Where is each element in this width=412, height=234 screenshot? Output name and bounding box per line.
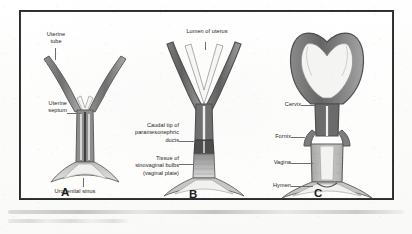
label-hymen-line-1: Hymen: [273, 182, 291, 188]
label-vagina: Vagina: [253, 159, 291, 166]
panel-letter-c: C: [314, 187, 323, 199]
label-cervix: Cervix: [263, 101, 301, 108]
label-sinovaginal-line-1: Tissue of: [156, 155, 179, 161]
label-fornix: Fornix: [253, 133, 291, 140]
leader-urogenital-sinus: [83, 178, 84, 187]
label-uterine-septum-line-2: septum: [48, 107, 67, 113]
label-lumen-of-uterus-line-1: Lumen of uterus: [186, 28, 227, 34]
label-urogenital-sinus: Urogenital sinus: [35, 188, 115, 195]
label-cervix-line-1: Cervix: [285, 101, 301, 107]
leader-vagina: [291, 163, 313, 164]
panel-c: Cervix Fornix Vagina Hymen C: [267, 12, 396, 202]
leader-caudal-tip: [179, 141, 194, 142]
panel-b: Lumen of uterus Caudal tip ofparamesonep…: [149, 12, 267, 202]
label-caudal-tip-line-3: ducts: [165, 137, 179, 143]
leader-uterine-tube: [55, 48, 56, 60]
label-caudal-tip-of-paramesonephric-ducts: Caudal tip ofparamesonephricducts: [119, 122, 179, 144]
label-lumen-of-uterus: Lumen of uterus: [169, 28, 245, 35]
label-vagina-line-1: Vagina: [274, 159, 291, 165]
leader-lumen-of-uterus: [205, 42, 206, 50]
label-uterine-tube: Uterinetube: [35, 31, 77, 46]
label-uterine-septum: Uterineseptum: [23, 100, 67, 115]
leader-uterine-septum: [67, 113, 81, 114]
label-uterine-tube-line-1: Uterine: [47, 31, 65, 37]
caption-line-1-blur: [8, 210, 404, 214]
label-fornix-line-1: Fornix: [275, 133, 291, 139]
label-uterine-septum-line-1: Uterine: [49, 100, 67, 106]
leader-hymen: [291, 186, 313, 187]
leader-cervix: [301, 105, 315, 106]
label-tissue-of-sinovaginal-bulbs: Tissue ofsinovaginal bulbs(vaginal plate…: [119, 155, 179, 177]
label-sinovaginal-line-2: sinovaginal bulbs: [135, 162, 179, 168]
label-sinovaginal-line-3: (vaginal plate): [143, 170, 179, 176]
panel-letter-a: A: [61, 186, 70, 198]
label-caudal-tip-line-1: Caudal tip of: [147, 122, 179, 128]
leader-sinovaginal-bulbs: [179, 164, 193, 165]
label-hymen: Hymen: [253, 182, 291, 189]
leader-fornix: [291, 137, 305, 138]
label-caudal-tip-line-2: paramesonephric: [135, 129, 179, 135]
caption-line-2-blur: [8, 219, 128, 223]
label-uterine-tube-line-2: tube: [50, 38, 61, 44]
figure-caption: [8, 210, 406, 230]
figure-plate-frame: Uterinetube Uterineseptum Urogenital sin…: [19, 10, 394, 200]
figure-root: Uterinetube Uterineseptum Urogenital sin…: [0, 0, 412, 234]
panel-letter-b: B: [189, 188, 198, 200]
